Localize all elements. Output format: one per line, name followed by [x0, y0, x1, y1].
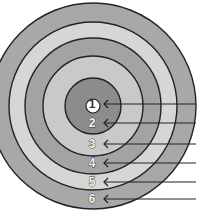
ring-label-3: 3: [89, 137, 96, 151]
ring-label-4: 4: [89, 156, 96, 170]
ring-label-2: 2: [89, 116, 96, 130]
target-diagram: 654321: [0, 0, 204, 211]
ring-label-6: 6: [89, 192, 96, 206]
ring-label-1: 1: [89, 97, 96, 111]
ring-label-5: 5: [89, 175, 96, 189]
